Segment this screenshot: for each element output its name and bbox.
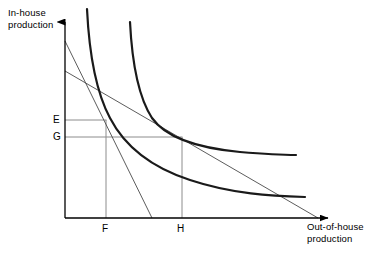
y-axis-label-line2: production (8, 19, 53, 31)
y-axis-label-line1: In-house (8, 7, 53, 19)
tick-label-E: E (53, 115, 60, 125)
tick-label-G: G (53, 132, 61, 142)
tick-label-F: F (102, 224, 108, 234)
indifference-curve-outer (130, 22, 296, 155)
tick-label-H: H (177, 224, 184, 234)
budget-lines (65, 41, 318, 218)
y-axis-label: In-house production (8, 7, 53, 30)
x-axis-label-line1: Out-of-house (307, 221, 364, 233)
economics-isoquant-diagram: In-house production Out-of-house product… (0, 0, 379, 260)
x-axis-label-line2: production (307, 233, 364, 245)
x-axis-label: Out-of-house production (307, 221, 364, 244)
budget-line-steep (65, 41, 152, 218)
